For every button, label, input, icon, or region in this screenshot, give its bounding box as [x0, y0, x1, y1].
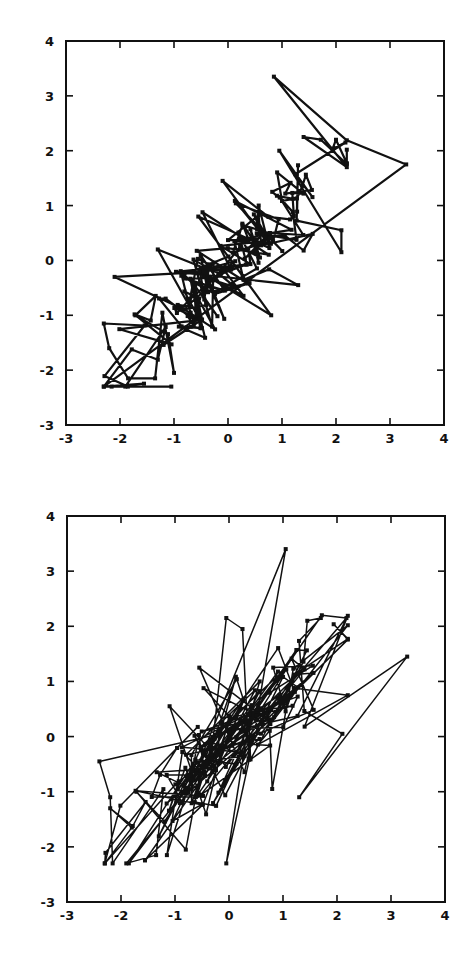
x-tick-label: -3 [60, 908, 74, 923]
data-point-marker [133, 313, 137, 317]
data-point-marker [279, 671, 283, 675]
data-point-marker [302, 709, 306, 713]
data-point-marker [197, 297, 201, 301]
data-point-marker [404, 162, 408, 166]
data-point-marker [223, 793, 227, 797]
data-point-marker [301, 660, 305, 664]
data-point-marker [302, 249, 306, 253]
data-point-marker [241, 627, 245, 631]
data-point-marker [189, 753, 193, 757]
data-point-marker [249, 703, 253, 707]
data-point-marker [226, 238, 230, 242]
data-point-marker [166, 332, 170, 336]
data-point-marker [182, 784, 186, 788]
data-point-marker [246, 739, 250, 743]
data-point-marker [300, 184, 304, 188]
data-point-marker [215, 314, 219, 318]
data-point-marker [150, 795, 154, 799]
data-point-marker [256, 743, 260, 747]
data-point-marker [180, 750, 184, 754]
data-point-marker [246, 237, 250, 241]
data-point-marker [196, 725, 200, 729]
data-point-marker [295, 219, 299, 223]
data-point-marker [157, 834, 161, 838]
data-point-marker [207, 767, 211, 771]
data-point-marker [162, 343, 166, 347]
data-point-marker [217, 273, 221, 277]
data-point-marker [255, 266, 259, 270]
data-point-marker [340, 732, 344, 736]
data-point-marker [239, 721, 243, 725]
data-point-marker [278, 196, 282, 200]
data-point-marker [171, 819, 175, 823]
data-point-marker [290, 657, 294, 661]
data-point-marker [198, 326, 202, 330]
data-point-marker [179, 269, 183, 273]
data-point-marker [213, 767, 217, 771]
data-point-marker [188, 277, 192, 281]
data-point-marker [311, 232, 315, 236]
data-point-marker [291, 210, 295, 214]
data-point-marker [211, 801, 215, 805]
data-point-marker [291, 704, 295, 708]
data-point-marker [267, 691, 271, 695]
data-point-marker [149, 319, 153, 323]
data-point-marker [134, 790, 138, 794]
data-point-marker [290, 191, 294, 195]
data-point-marker [247, 758, 251, 762]
data-point-marker [302, 135, 306, 139]
data-point-marker [294, 648, 298, 652]
data-point-marker [179, 274, 183, 278]
data-point-marker [312, 708, 316, 712]
data-point-marker [238, 245, 242, 249]
x-tick-label: 2 [331, 431, 340, 446]
y-tick-label: -2 [40, 363, 54, 378]
data-point-marker [289, 181, 293, 185]
data-point-marker [193, 291, 197, 295]
data-point-marker [222, 743, 226, 747]
data-point-marker [232, 727, 236, 731]
x-tick-label: 1 [278, 908, 287, 923]
data-point-marker [207, 264, 211, 268]
y-tick-label: 3 [45, 89, 54, 104]
data-point-marker [108, 806, 112, 810]
data-point-marker [297, 639, 301, 643]
data-point-marker [189, 311, 193, 315]
data-point-marker [233, 715, 237, 719]
data-point-marker [183, 277, 187, 281]
data-point-marker [154, 853, 158, 857]
data-point-marker [168, 704, 172, 708]
data-point-marker [302, 192, 306, 196]
data-point-marker [224, 616, 228, 620]
data-point-marker [130, 826, 134, 830]
data-point-marker [242, 750, 246, 754]
tour-chart-thick: -3-2-101234-3-2-101234 [0, 0, 474, 481]
data-point-marker [194, 795, 198, 799]
data-point-marker [277, 149, 281, 153]
data-point-marker [224, 765, 228, 769]
data-point-marker [103, 851, 107, 855]
data-point-marker [113, 275, 117, 279]
data-point-marker [257, 213, 261, 217]
x-tick-label: -2 [113, 431, 127, 446]
data-point-marker [209, 752, 213, 756]
data-point-marker [295, 238, 299, 242]
data-point-marker [339, 228, 343, 232]
data-point-marker [229, 268, 233, 272]
x-tick-label: 4 [440, 908, 449, 923]
y-tick-label: -3 [41, 895, 55, 910]
data-point-marker [181, 308, 185, 312]
data-point-marker [192, 258, 196, 262]
data-point-marker [254, 238, 258, 242]
data-point-marker [311, 664, 315, 668]
data-point-marker [197, 317, 201, 321]
data-point-marker [281, 725, 285, 729]
data-point-marker [182, 289, 186, 293]
data-point-marker [201, 210, 205, 214]
data-point-marker [334, 138, 338, 142]
bottom-tour-plot: -3-2-101234-3-2-101234 [0, 475, 474, 956]
y-tick-label: -1 [41, 785, 55, 800]
data-point-marker [267, 253, 271, 257]
data-point-marker [181, 801, 185, 805]
x-tick-label: 1 [277, 431, 286, 446]
